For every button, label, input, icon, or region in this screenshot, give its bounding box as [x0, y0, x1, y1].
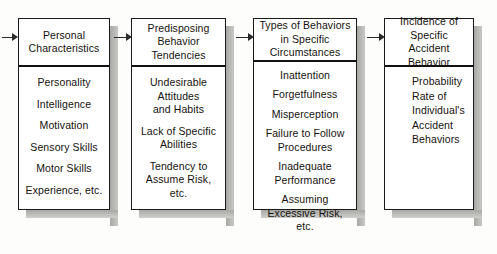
- box-entry: Accident: [390, 119, 468, 133]
- box-entry: Experience, etc.: [24, 184, 104, 198]
- connector-arrow-3-4: [367, 33, 385, 42]
- box-frame: Personal Characteristics Personality Int…: [18, 18, 110, 210]
- box-body: Inattention Forgetfulness Misperception …: [254, 62, 356, 234]
- box-frame: Types of Behaviors in Specific Circumsta…: [253, 18, 357, 210]
- arrow-line: [236, 37, 248, 38]
- box-shadow-corner-top: [110, 18, 118, 26]
- box-header: Predisposing Behavior Tendencies: [132, 19, 225, 67]
- box-header-text: Incidence of Specific Accident Behavior: [389, 15, 469, 69]
- box-shadow-corner-top: [226, 18, 234, 26]
- box-body: Personality Intelligence Motivation Sens…: [19, 67, 109, 209]
- box-frame: Predisposing Behavior Tendencies Undesir…: [131, 18, 226, 210]
- process-box-predisposing-behavior-tendencies: Predisposing Behavior Tendencies Undesir…: [131, 18, 234, 218]
- box-shadow-corner-top: [474, 18, 482, 26]
- box-header-text: Personal Characteristics: [23, 29, 105, 56]
- box-entry: Intelligence: [24, 98, 104, 112]
- box-entry: Forgetfulness: [259, 88, 351, 102]
- box-shadow-right: [110, 26, 118, 226]
- connector-arrow-2-3: [236, 33, 254, 42]
- box-entry: Sensory Skills: [24, 141, 104, 155]
- box-body: Probability Rate of Individual's Acciden…: [385, 67, 473, 209]
- box-entry: Misperception: [259, 108, 351, 122]
- process-box-types-of-behaviors: Types of Behaviors in Specific Circumsta…: [253, 18, 365, 218]
- box-shadow-bottom: [139, 210, 234, 218]
- inflow-arrow: [2, 33, 18, 42]
- box-entry: Undesirable Attitudes and Habits: [137, 76, 220, 117]
- box-frame: Incidence of Specific Accident Behavior …: [384, 18, 474, 210]
- box-shadow-bottom: [26, 210, 118, 218]
- box-shadow-corner-bottom: [131, 210, 139, 218]
- box-entry: Behaviors: [390, 133, 468, 147]
- box-entry: Rate of: [390, 90, 468, 104]
- box-entry: Probability: [390, 75, 468, 89]
- box-entry: Inattention: [259, 69, 351, 83]
- box-shadow-corner-bottom: [18, 210, 26, 218]
- box-entry: Failure to Follow Procedures: [259, 127, 351, 154]
- box-entry: Inadequate Performance: [259, 160, 351, 187]
- box-entry: Motivation: [24, 119, 104, 133]
- box-header: Incidence of Specific Accident Behavior: [385, 19, 473, 67]
- process-box-personal-characteristics: Personal Characteristics Personality Int…: [18, 18, 118, 218]
- box-entry: Tendency to Assume Risk, etc.: [137, 160, 220, 201]
- box-header-text: Types of Behaviors in Specific Circumsta…: [258, 19, 352, 60]
- box-entry: Assuming Excessive Risk, etc.: [259, 193, 351, 234]
- process-box-incidence-of-specific-accident-behavior: Incidence of Specific Accident Behavior …: [384, 18, 482, 218]
- box-entry: Motor Skills: [24, 162, 104, 176]
- box-shadow-bottom: [392, 210, 482, 218]
- box-shadow-right: [474, 26, 482, 226]
- box-header-text: Predisposing Behavior Tendencies: [136, 22, 221, 63]
- diagram-canvas: Personal Characteristics Personality Int…: [0, 0, 497, 254]
- box-header: Types of Behaviors in Specific Circumsta…: [254, 19, 356, 62]
- arrow-line: [114, 37, 126, 38]
- box-shadow-corner-bottom: [384, 210, 392, 218]
- box-shadow-right: [226, 26, 234, 226]
- box-shadow-corner-top: [357, 18, 365, 26]
- arrow-line: [2, 37, 12, 38]
- box-entry: Personality: [24, 76, 104, 90]
- box-entry: Individual's: [390, 104, 468, 118]
- box-entry: Lack of Specific Abilities: [137, 125, 220, 152]
- box-shadow-right: [357, 26, 365, 226]
- connector-arrow-1-2: [114, 33, 132, 42]
- arrow-line: [367, 37, 379, 38]
- box-header: Personal Characteristics: [19, 19, 109, 67]
- box-body: Undesirable Attitudes and Habits Lack of…: [132, 67, 225, 209]
